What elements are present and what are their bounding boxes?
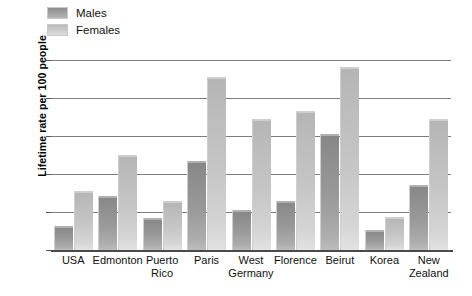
bar-group: [365, 60, 404, 250]
bar-highlight: [321, 134, 339, 136]
category-label-line: Zealand: [401, 267, 457, 280]
bar-highlight: [99, 196, 117, 198]
legend-swatch-males: [47, 7, 68, 19]
bar-highlight: [366, 230, 384, 232]
bar-highlight: [119, 155, 137, 157]
bar-males: [98, 196, 117, 250]
plot-area: 0510152025: [51, 60, 451, 250]
bar-highlight: [164, 201, 182, 203]
bar-group: [187, 60, 226, 250]
y-tick-mark: [46, 98, 51, 99]
bar-males: [54, 226, 73, 250]
x-axis-line: [51, 250, 453, 252]
category-label-line: Germany: [223, 267, 279, 280]
x-axis-category-labels: USAEdmontonPuertoRicoParisWestGermanyFlo…: [51, 254, 451, 294]
legend-label-females: Females: [76, 24, 120, 36]
bar-highlight: [297, 111, 315, 113]
bar-highlight: [386, 217, 404, 219]
bar-group: [98, 60, 137, 250]
bar-females: [429, 119, 448, 250]
bar-males: [409, 185, 428, 250]
category-label: NewZealand: [401, 254, 457, 280]
bar-group: [409, 60, 448, 250]
bar-group: [232, 60, 271, 250]
legend-item-males: Males: [47, 4, 120, 21]
category-label-line: Rico: [134, 267, 190, 280]
bar-highlight: [55, 226, 73, 228]
bar-females: [163, 201, 182, 250]
y-tick-mark: [46, 250, 51, 251]
bar-highlight: [277, 201, 295, 203]
y-tick-mark: [46, 212, 51, 213]
bar-females: [252, 119, 271, 250]
bar-males: [143, 218, 162, 250]
bar-group: [54, 60, 93, 250]
y-axis-title: Lifetime rate per 100 people: [36, 6, 48, 206]
bar-group: [143, 60, 182, 250]
bar-females: [118, 155, 137, 250]
y-tick-mark: [46, 174, 51, 175]
bar-highlight: [410, 185, 428, 187]
bar-females: [74, 191, 93, 250]
bar-highlight: [253, 119, 271, 121]
bar-highlight: [341, 67, 359, 69]
y-tick-mark: [46, 136, 51, 137]
bar-females: [385, 217, 404, 250]
bar-females: [340, 67, 359, 250]
chart-root: Males Females Lifetime rate per 100 peop…: [0, 0, 472, 296]
bar-males: [320, 134, 339, 250]
chart-legend: Males Females: [47, 4, 120, 38]
bar-highlight: [144, 218, 162, 220]
bar-males: [365, 230, 384, 250]
legend-item-females: Females: [47, 21, 120, 38]
bar-males: [187, 161, 206, 250]
bar-group: [276, 60, 315, 250]
bar-group: [320, 60, 359, 250]
bar-highlight: [233, 210, 251, 212]
bar-highlight: [188, 161, 206, 163]
bar-males: [232, 210, 251, 250]
bar-males: [276, 201, 295, 250]
bar-highlight: [430, 119, 448, 121]
bar-females: [296, 111, 315, 250]
bar-females: [207, 77, 226, 250]
y-tick-mark: [46, 60, 51, 61]
legend-label-males: Males: [76, 7, 107, 19]
legend-swatch-females: [47, 24, 68, 36]
category-label-line: New: [401, 254, 457, 267]
bar-highlight: [208, 77, 226, 79]
bar-highlight: [75, 191, 93, 193]
